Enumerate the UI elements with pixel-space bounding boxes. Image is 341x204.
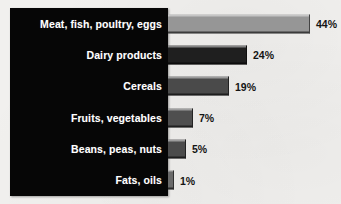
bar <box>168 108 193 127</box>
chart-row: Fruits, vegetables 7% <box>0 102 341 133</box>
category-label: Fruits, vegetables <box>71 112 162 124</box>
chart-row: Fats, oils 1% <box>0 165 341 196</box>
chart-row: Dairy products 24% <box>0 39 341 70</box>
bar-value-label: 19% <box>235 80 256 92</box>
bar-group: 19% <box>168 77 256 96</box>
category-label: Cereals <box>123 80 162 92</box>
bar <box>168 171 174 190</box>
bar <box>168 139 186 158</box>
bar-rows-container: Meat, fish, poultry, eggs 44% Dairy prod… <box>0 8 341 196</box>
chart-row: Beans, peas, nuts 5% <box>0 133 341 164</box>
bar <box>168 45 247 64</box>
bar-group: 24% <box>168 45 274 64</box>
category-label: Meat, fish, poultry, eggs <box>40 18 162 30</box>
bar-value-label: 24% <box>253 49 274 61</box>
category-label: Fats, oils <box>115 174 162 186</box>
bar-value-label: 5% <box>192 143 207 155</box>
bar <box>168 77 229 96</box>
bar-group: 44% <box>168 14 337 33</box>
bar-value-label: 7% <box>199 112 214 124</box>
bar <box>168 14 310 33</box>
bar-group: 7% <box>168 108 214 127</box>
bar-value-label: 44% <box>316 18 337 30</box>
bar-value-label: 1% <box>180 174 195 186</box>
bar-group: 1% <box>168 171 195 190</box>
category-label: Beans, peas, nuts <box>71 143 162 155</box>
bar-group: 5% <box>168 139 207 158</box>
chart-row: Meat, fish, poultry, eggs 44% <box>0 8 341 39</box>
category-label: Dairy products <box>87 49 163 61</box>
chart-row: Cereals 19% <box>0 71 341 102</box>
bar-chart-figure: Meat, fish, poultry, eggs 44% Dairy prod… <box>0 0 341 204</box>
